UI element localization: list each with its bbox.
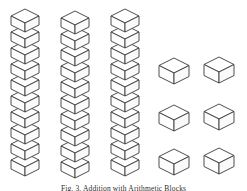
arithmetic-blocks-figure: Fig. 3. Addition with Arithmetic Blocks [0, 0, 247, 191]
unit-cube-1 [158, 57, 190, 85]
column-2 [60, 10, 90, 179]
unit-cube-6-graphic [203, 147, 235, 175]
figure-caption: Fig. 3. Addition with Arithmetic Blocks [0, 184, 247, 191]
column-2-graphic [60, 10, 90, 179]
column-1-graphic [10, 8, 40, 177]
unit-cube-3 [158, 104, 190, 132]
column-3 [110, 8, 140, 177]
column-3-graphic [110, 8, 140, 177]
unit-cube-3-graphic [158, 104, 190, 132]
column-1 [10, 8, 40, 177]
unit-cube-5-graphic [158, 148, 190, 176]
unit-cube-5 [158, 148, 190, 176]
unit-cube-1-graphic [158, 57, 190, 85]
unit-cube-6 [203, 147, 235, 175]
unit-cube-2 [203, 56, 235, 84]
unit-cube-4-graphic [203, 103, 235, 131]
unit-cube-2-graphic [203, 56, 235, 84]
unit-cube-4 [203, 103, 235, 131]
